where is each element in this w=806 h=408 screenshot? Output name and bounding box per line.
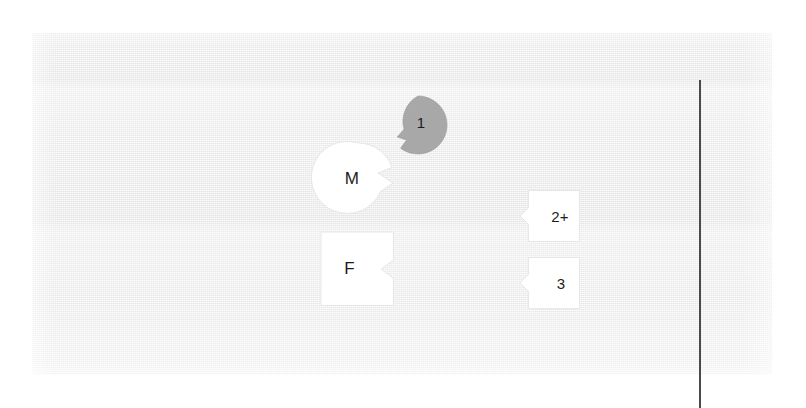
scanned-page-panel: 1 M F 2+ 3 (32, 33, 772, 375)
node-square-3[interactable]: 3 (528, 257, 580, 309)
circle-notched-shape-icon (389, 96, 447, 154)
node-circle-m[interactable]: M (322, 143, 394, 215)
scan-texture-banding (32, 33, 772, 375)
node-square-f[interactable]: F (321, 232, 394, 306)
circle-notched-shape-icon (322, 143, 394, 215)
square-notched-shape-icon (321, 232, 394, 306)
square-notched-shape-icon (528, 190, 580, 242)
node-square-2plus[interactable]: 2+ (528, 190, 580, 242)
scan-texture-vignette (32, 33, 772, 375)
node-circle-1[interactable]: 1 (389, 96, 447, 154)
scan-texture-grain (32, 33, 772, 375)
square-notched-shape-icon (528, 257, 580, 309)
vertical-rule-divider (699, 80, 701, 408)
